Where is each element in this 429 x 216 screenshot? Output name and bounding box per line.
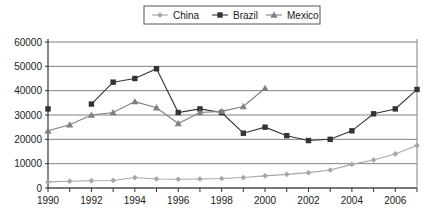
data-point-marker [261, 85, 268, 91]
data-point-marker [371, 111, 376, 116]
y-axis-tick-label: 40000 [14, 85, 42, 96]
data-point-marker [262, 124, 267, 129]
data-point-marker [219, 176, 225, 182]
data-point-marker [154, 176, 160, 182]
chart-legend: ChinaBrazilMexico [144, 6, 320, 24]
x-axis-tick-label: 2002 [297, 195, 320, 206]
y-axis-tick-label: 30000 [14, 110, 42, 121]
data-point-marker [241, 131, 246, 136]
series-mexico [44, 85, 268, 134]
y-axis-tick-label: 60000 [14, 37, 42, 48]
line-chart: 0100002000030000400005000060000199019921… [0, 0, 429, 216]
x-axis-tick-label: 2006 [384, 195, 407, 206]
data-point-marker [262, 173, 268, 179]
data-point-marker [306, 138, 311, 143]
data-point-marker [327, 137, 332, 142]
y-axis-tick-label: 50000 [14, 61, 42, 72]
data-point-marker [327, 167, 333, 173]
data-point-marker [131, 98, 138, 104]
x-axis-tick-label: 2004 [341, 195, 364, 206]
y-axis-tick-label: 20000 [14, 134, 42, 145]
x-axis-tick-label: 1996 [167, 195, 190, 206]
x-axis-tick-label: 1998 [211, 195, 234, 206]
series-line [91, 69, 417, 141]
data-point-marker [175, 176, 181, 182]
x-axis-tick-label: 1990 [37, 195, 60, 206]
data-point-marker [89, 178, 95, 184]
data-point-marker [110, 178, 116, 184]
legend-label: Mexico [287, 10, 319, 21]
legend-label: China [173, 10, 200, 21]
data-point-marker [197, 176, 203, 182]
data-point-marker [284, 172, 290, 178]
data-point-marker [371, 157, 377, 163]
data-point-marker [89, 101, 94, 106]
data-point-marker [349, 162, 355, 168]
data-point-marker [349, 128, 354, 133]
data-point-marker [414, 87, 419, 92]
data-point-marker [393, 106, 398, 111]
data-point-marker [45, 106, 50, 111]
data-point-marker [392, 151, 398, 157]
data-point-marker [284, 133, 289, 138]
data-point-marker [306, 170, 312, 176]
y-axis-tick-label: 0 [36, 183, 42, 194]
legend-label: Brazil [233, 10, 258, 21]
data-point-marker [132, 175, 138, 181]
chart-container: 0100002000030000400005000060000199019921… [0, 0, 429, 216]
y-axis-tick-label: 10000 [14, 158, 42, 169]
x-axis-tick-label: 1992 [80, 195, 103, 206]
data-point-marker [241, 175, 247, 181]
data-point-marker [175, 120, 182, 126]
data-point-marker [414, 143, 420, 149]
data-point-marker [67, 178, 73, 184]
data-point-marker [154, 66, 159, 71]
data-point-marker [66, 121, 73, 127]
data-point-marker [176, 110, 181, 115]
series-brazil [45, 66, 419, 143]
data-point-marker [45, 179, 51, 185]
data-point-marker [110, 79, 115, 84]
data-point-marker [110, 109, 117, 115]
x-axis-tick-label: 1994 [124, 195, 147, 206]
x-axis-tick-label: 2000 [254, 195, 277, 206]
data-point-marker [132, 76, 137, 81]
data-point-marker [217, 12, 222, 17]
